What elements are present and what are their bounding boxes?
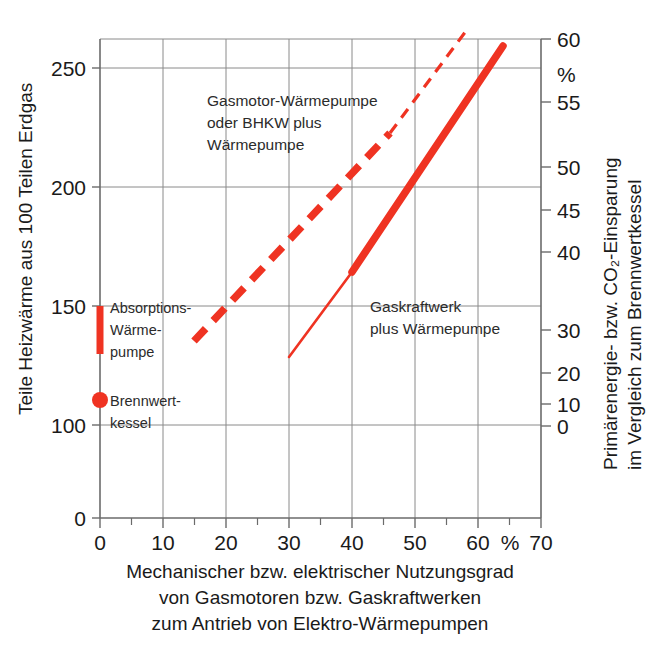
y2-tick-label-0: 0 xyxy=(557,415,569,438)
chart-figure: 250 200 150 100 0 Teile Heizwärme aus 10… xyxy=(0,0,664,647)
y2-tick-label-45: 45 xyxy=(557,199,580,222)
annotation-gasmotor-line1: Gasmotor-Wärmepumpe xyxy=(207,92,378,109)
y-tick-label-150: 150 xyxy=(51,295,86,318)
y2-tick-label-10: 10 xyxy=(557,393,580,416)
caption-line-2: von Gasmotoren bzw. Gaskraftwerken xyxy=(159,587,481,608)
annotation-gasmotor-line3: Wärmepumpe xyxy=(207,136,304,153)
x-tick-label-60: 60 xyxy=(466,531,489,554)
x-tick-label-10: 10 xyxy=(151,531,174,554)
x-axis-caption: Mechanischer bzw. elektrischer Nutzungsg… xyxy=(126,561,514,634)
caption-line-3: zum Antrieb von Elektro-Wärmepumpen xyxy=(152,613,489,634)
y-axis-right-title-line1: Primärenergie- bzw. CO₂-Einsparung xyxy=(600,157,621,470)
annotation-brennwert-line1: Brennwert- xyxy=(110,393,181,409)
y2-tick-label-60: 60 xyxy=(557,28,580,51)
x-tick-label-20: 20 xyxy=(214,531,237,554)
y-tick-label-250: 250 xyxy=(51,57,86,80)
annotation-gasmotor-line2: oder BHKW plus xyxy=(207,114,322,131)
y2-tick-label-30: 30 xyxy=(557,319,580,342)
annotation-absorptions-line3: pumpe xyxy=(110,344,154,360)
y2-tick-label-40: 40 xyxy=(557,241,580,264)
x-tick-label-70: 70 xyxy=(529,531,552,554)
x-tick-label-0: 0 xyxy=(94,531,106,554)
y-axis-right-title-line2: im Vergleich zum Brennwertkessel xyxy=(624,180,645,470)
y2-tick-label-50: 50 xyxy=(557,156,580,179)
y-tick-label-100: 100 xyxy=(51,414,86,437)
annotation-gaskraftwerk-line2: plus Wärmepumpe xyxy=(370,320,500,337)
x-unit-percent: % xyxy=(501,531,520,554)
x-tick-label-30: 30 xyxy=(277,531,300,554)
annotation-absorptions-line1: Absorptions- xyxy=(110,300,192,316)
caption-line-1: Mechanischer bzw. elektrischer Nutzungsg… xyxy=(126,561,514,582)
x-tick-label-50: 50 xyxy=(403,531,426,554)
x-tick-label-40: 40 xyxy=(340,531,363,554)
annotation-absorptions-line2: Wärme- xyxy=(110,322,162,338)
y-axis-left-title: Teile Heizwärme aus 100 Teilen Erdgas xyxy=(15,83,36,415)
chart-canvas: 250 200 150 100 0 Teile Heizwärme aus 10… xyxy=(0,0,664,647)
annotation-brennwert-line2: kessel xyxy=(110,415,151,431)
series-brennwertkessel-marker xyxy=(92,392,108,408)
y2-tick-label-20: 20 xyxy=(557,362,580,385)
y-tick-label-200: 200 xyxy=(51,176,86,199)
y-tick-label-0: 0 xyxy=(74,507,86,530)
y2-tick-label-55: 55 xyxy=(557,91,580,114)
y2-unit-percent: % xyxy=(557,63,576,86)
annotation-gaskraftwerk-line1: Gaskraftwerk xyxy=(370,298,462,315)
